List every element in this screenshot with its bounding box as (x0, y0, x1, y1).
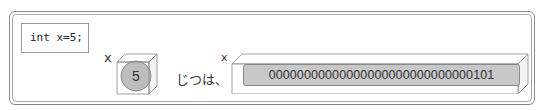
variable-value: 5 (132, 68, 140, 84)
binary-value: 00000000000000000000000000000101 (243, 64, 520, 86)
variable-label: x (104, 50, 112, 65)
code-snippet: int x=5; (21, 23, 89, 53)
variable-box-icon: 5 (115, 52, 159, 96)
variable-label-binary: x (221, 51, 228, 64)
connector-text: じつは、 (176, 69, 228, 88)
